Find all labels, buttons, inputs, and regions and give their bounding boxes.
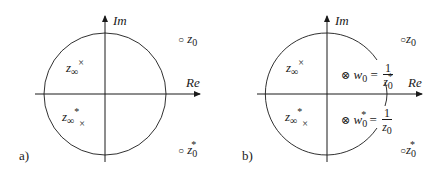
imag-axis-label: Im bbox=[335, 14, 349, 27]
panel-a-graphics bbox=[35, 16, 200, 162]
point-z0: ○z0 bbox=[400, 32, 416, 45]
point-z-inf: z∞× bbox=[66, 61, 84, 74]
real-axis-label: Re bbox=[186, 76, 200, 89]
pole-marker-icon: × bbox=[78, 57, 84, 68]
point-w0: ⊗ w0 = 1 z0* bbox=[341, 62, 393, 90]
point-z0-conj: ○z0* bbox=[400, 143, 415, 156]
point-z-inf-conj: z∞*× bbox=[285, 110, 308, 123]
panel-tag-b: b) bbox=[242, 148, 253, 164]
pole-marker-icon: × bbox=[302, 118, 308, 129]
panel-b-graphics bbox=[257, 16, 422, 162]
pole-marker-icon: × bbox=[79, 118, 85, 129]
point-z-inf: z∞× bbox=[286, 61, 304, 74]
fraction: 1 z0 bbox=[382, 107, 392, 135]
zero-marker-icon: ○ bbox=[178, 34, 184, 45]
point-z0: ○ z0 bbox=[178, 32, 197, 45]
pole-marker-icon: × bbox=[298, 57, 304, 68]
zero-pole-marker-icon: ⊗ bbox=[341, 114, 350, 126]
zero-marker-icon: ○ bbox=[178, 145, 184, 156]
fraction: 1 z0* bbox=[383, 62, 393, 90]
point-z0-conj: ○ z0* bbox=[178, 143, 196, 156]
point-w0-conj: ⊗ w0* = 1 z0 bbox=[341, 107, 392, 135]
panel-tag-a: a) bbox=[19, 148, 29, 164]
zero-pole-marker-icon: ⊗ bbox=[341, 69, 350, 81]
real-axis-label: Re bbox=[408, 76, 422, 89]
point-z-inf-conj: z∞*× bbox=[62, 110, 85, 123]
imag-axis-label: Im bbox=[113, 14, 127, 27]
